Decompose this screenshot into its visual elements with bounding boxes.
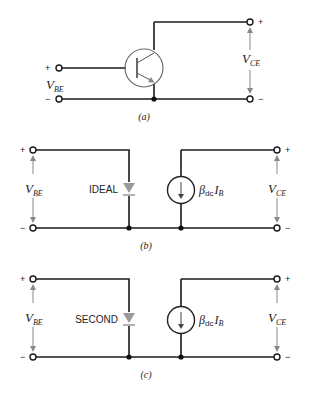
emitter-terminal-right[interactable] — [247, 96, 253, 102]
vce-minus: − — [285, 352, 290, 362]
left-top-terminal[interactable] — [30, 147, 36, 153]
vce-plus: + — [285, 145, 290, 155]
panel-c: SECOND βdcIB + − + − VBE VCE (c) — [20, 274, 290, 381]
junction-dot-left — [126, 354, 131, 359]
caption-c: (c) — [140, 369, 152, 381]
left-bottom-terminal[interactable] — [30, 354, 36, 360]
second-approx-diode-icon — [123, 313, 135, 325]
ideal-diode-icon — [123, 183, 135, 195]
junction-dot-right — [178, 225, 183, 230]
junction-dot-left — [126, 225, 131, 230]
diode-label: SECOND — [75, 314, 118, 325]
vce-plus: + — [285, 274, 290, 284]
left-top-wire — [36, 150, 129, 182]
panel-a: + − + − VBE VCE (a) — [45, 17, 263, 123]
right-bottom-terminal[interactable] — [274, 225, 280, 231]
current-source-icon — [168, 307, 195, 334]
vbe-label: VBE — [46, 77, 64, 94]
vbe-minus: − — [20, 223, 25, 233]
current-source-label: βdcIB — [198, 313, 223, 328]
base-terminal[interactable] — [56, 65, 62, 71]
vbe-plus: + — [20, 274, 25, 284]
current-source-label: βdcIB — [198, 183, 223, 198]
panel-b: IDEAL βdcIB + − + − VBE VCE (b) — [20, 145, 290, 252]
transistor-models-diagram: + − + − VBE VCE (a) IDEAL — [0, 0, 309, 395]
vbe-plus: + — [45, 63, 50, 73]
junction-dot — [151, 96, 156, 101]
collector-terminal[interactable] — [247, 19, 253, 25]
right-top-terminal[interactable] — [274, 276, 280, 282]
caption-b: (b) — [140, 240, 152, 252]
vbe-plus: + — [20, 145, 25, 155]
left-top-terminal[interactable] — [30, 276, 36, 282]
current-source-icon — [168, 177, 195, 204]
vce-label: VCE — [268, 181, 286, 198]
vce-label: VCE — [242, 51, 260, 68]
vce-minus: − — [285, 223, 290, 233]
emitter-terminal-left[interactable] — [56, 96, 62, 102]
vbe-label: VBE — [25, 181, 43, 198]
npn-transistor-icon — [125, 49, 163, 87]
junction-dot-right — [178, 354, 183, 359]
right-top-terminal[interactable] — [274, 147, 280, 153]
vce-label: VCE — [268, 310, 286, 327]
left-top-wire — [36, 279, 129, 312]
right-bottom-terminal[interactable] — [274, 354, 280, 360]
vbe-minus: − — [20, 352, 25, 362]
vbe-minus: − — [45, 94, 50, 104]
vbe-label: VBE — [25, 310, 43, 327]
caption-a: (a) — [138, 111, 150, 123]
vce-plus: + — [258, 17, 263, 27]
left-bottom-terminal[interactable] — [30, 225, 36, 231]
vce-minus: − — [258, 94, 263, 104]
diode-label: IDEAL — [89, 184, 118, 195]
